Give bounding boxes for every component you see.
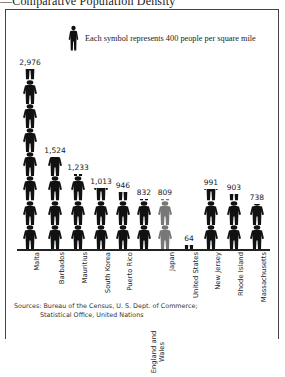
- chart-title: —Comparative Population Density: [0, 0, 176, 9]
- person-icon: [249, 225, 265, 249]
- person-icon: [47, 225, 63, 249]
- legend: Each symbol represents 400 people per sq…: [68, 25, 256, 51]
- value-label: 1,524: [35, 146, 75, 155]
- person-icon: [47, 176, 63, 200]
- person-icon: [203, 201, 219, 225]
- sources-note: Sources: Bureau of the Census, U. S. Dep…: [14, 302, 198, 320]
- category-label: Massachusetts: [261, 252, 269, 377]
- value-label: 1,233: [58, 163, 98, 172]
- category-label: New Jersey: [215, 252, 223, 377]
- value-label: 2,976: [10, 58, 50, 67]
- category-label: Rhode Island: [238, 252, 246, 377]
- person-icon: [22, 152, 38, 176]
- value-label: 903: [214, 183, 254, 192]
- person-icon: [136, 201, 152, 225]
- legend-text: Each symbol represents 400 people per sq…: [85, 34, 256, 43]
- person-icon: [93, 201, 109, 225]
- person-icon: [115, 201, 131, 225]
- person-icon: [22, 80, 38, 104]
- partial-person-icon: [249, 204, 265, 224]
- person-icon: [68, 25, 79, 51]
- sources-line-1: Sources: Bureau of the Census, U. S. Dep…: [14, 302, 198, 311]
- person-icon: [22, 201, 38, 225]
- person-icon: [157, 201, 173, 225]
- value-label: 738: [237, 193, 277, 202]
- person-icon: [22, 225, 38, 249]
- partial-person-icon: [22, 69, 38, 80]
- person-icon: [115, 225, 131, 249]
- person-icon: [70, 201, 86, 225]
- person-icon: [22, 104, 38, 128]
- value-label: 809: [145, 188, 185, 197]
- person-icon: [226, 201, 242, 225]
- person-icon: [70, 225, 86, 249]
- person-icon: [226, 225, 242, 249]
- person-icon: [22, 176, 38, 200]
- partial-person-icon: [157, 199, 173, 201]
- person-icon: [203, 225, 219, 249]
- baseline-axis: [17, 249, 270, 251]
- partial-person-icon: [136, 199, 152, 201]
- sources-line-2: Statistical Office, United Nations: [14, 311, 198, 320]
- person-icon: [93, 225, 109, 249]
- person-icon: [136, 225, 152, 249]
- person-icon: [47, 201, 63, 225]
